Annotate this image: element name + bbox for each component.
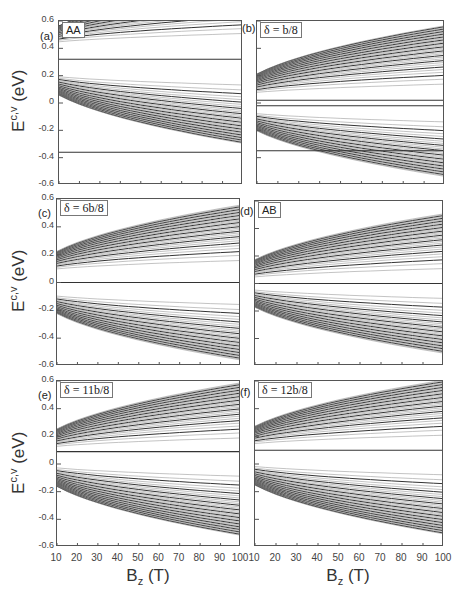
panel-c-tag: δ = 6b/8	[60, 200, 108, 216]
x-axis-title-left: Bz (T)	[98, 566, 198, 587]
panel-f-label: (f)	[240, 386, 250, 398]
panel-e: δ = 11b/8	[56, 380, 240, 546]
plot-d	[255, 201, 443, 365]
plot-f	[255, 381, 443, 546]
x-axis-title-right: Bz (T)	[298, 566, 398, 587]
panel-e-label: (e)	[38, 389, 51, 401]
y-tick-label: -0.4	[32, 331, 54, 341]
y-tick-label: -0.4	[32, 512, 54, 522]
plot-c	[57, 199, 240, 365]
y-tick-label: 0.6	[32, 374, 54, 384]
y-tick-label: -0.6	[32, 540, 54, 550]
panel-a: AA	[58, 20, 242, 184]
y-tick-label: 0	[32, 457, 54, 467]
panel-a-tag: AA	[62, 22, 85, 38]
y-tick-label: 0.4	[32, 402, 54, 412]
y-tick-label: 0.2	[32, 248, 54, 258]
panel-e-tag: δ = 11b/8	[60, 382, 113, 398]
y-tick-label: -0.6	[32, 178, 54, 188]
y-axis-title-row1: Ec,v (eV)	[7, 41, 29, 161]
y-tick-label: 0.6	[32, 192, 54, 202]
panel-b-tag: δ = b/8	[260, 22, 302, 38]
panel-c: δ = 6b/8	[56, 198, 240, 365]
panel-f-tag: δ = 12b/8	[258, 382, 312, 398]
y-tick-label: -0.2	[32, 123, 54, 133]
panel-a-label: (a)	[40, 30, 53, 42]
y-tick-label: -0.6	[32, 359, 54, 369]
y-tick-label: -0.4	[32, 151, 54, 161]
y-tick-label: 0.2	[32, 69, 54, 79]
y-tick-label: 0	[32, 96, 54, 106]
y-tick-label: 0	[32, 276, 54, 286]
y-axis-title-row2: Ec,v (eV)	[7, 221, 29, 341]
plot-a	[59, 21, 242, 184]
y-axis-title-row3: Ec,v (eV)	[7, 403, 29, 523]
y-tick-label: -0.2	[32, 485, 54, 495]
panel-b-label: (b)	[242, 22, 255, 34]
plot-b	[257, 21, 444, 184]
panel-d-label: (d)	[240, 205, 253, 217]
y-tick-label: 0.6	[32, 14, 54, 24]
panel-b: δ = b/8	[256, 20, 444, 184]
panel-d: AB	[254, 200, 443, 365]
y-tick-label: 0.4	[32, 220, 54, 230]
x-tick-label: 100	[431, 552, 455, 563]
panel-d-tag: AB	[258, 202, 281, 218]
panel-f: δ = 12b/8	[254, 380, 443, 546]
plot-e	[57, 381, 240, 546]
panel-c-label: (c)	[38, 207, 51, 219]
y-tick-label: 0.4	[32, 41, 54, 51]
y-tick-label: 0.2	[32, 429, 54, 439]
y-tick-label: -0.2	[32, 303, 54, 313]
